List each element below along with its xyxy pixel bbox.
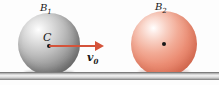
body-1-label-subscript: 1 — [47, 8, 51, 16]
body-1-label: B1 — [40, 3, 52, 16]
velocity-arrow-shaft — [49, 45, 97, 47]
body-2-label-subscript: 2 — [162, 7, 166, 15]
center-dot-body-2 — [162, 42, 166, 46]
ground-underside — [0, 78, 219, 80]
velocity-arrow-head — [95, 41, 104, 51]
physics-figure: B1 B2 C v0 — [0, 0, 219, 85]
center-of-mass-label: C — [43, 32, 51, 43]
body-2-label: B2 — [155, 2, 167, 15]
velocity-label: v0 — [87, 52, 98, 65]
velocity-label-subscript: 0 — [93, 57, 98, 66]
